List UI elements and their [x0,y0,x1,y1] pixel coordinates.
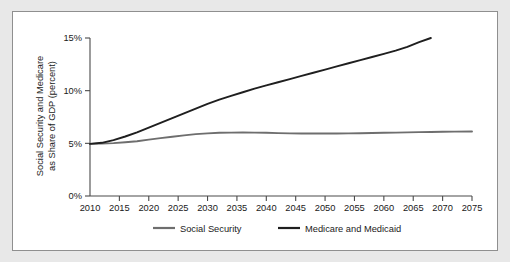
y-axis-title-line2: as Share of GDP (percent) [47,61,57,171]
legend-label: Social Security [180,224,242,234]
y-tick-label: 15% [63,33,82,43]
y-axis-title: Social Security and Medicare as Share of… [35,56,57,176]
x-tick-label: 2035 [227,203,248,213]
line-chart: Social Security and Medicare as Share of… [13,12,497,250]
x-tick-label: 2030 [197,203,218,213]
chart-panel: Social Security and Medicare as Share of… [12,11,498,251]
x-tick-label: 2070 [432,203,453,213]
x-tick-label: 2045 [285,203,306,213]
y-tick-label: 5% [69,139,82,149]
x-tick-label: 2050 [315,203,336,213]
legend-label: Medicare and Medicaid [305,224,401,234]
series-group [90,38,472,144]
x-tick-label: 2065 [403,203,424,213]
x-tick-label: 2010 [80,203,101,213]
x-tick-label: 2055 [344,203,365,213]
x-tick-label: 2015 [109,203,130,213]
chart-svg: Social Security and Medicare as Share of… [13,12,497,250]
series-line-social-security [90,132,472,144]
y-axis-ticks: 0%5%10%15% [63,33,90,201]
chart-legend: Social SecurityMedicare and Medicaid [153,224,401,234]
x-tick-label: 2060 [374,203,395,213]
x-axis-ticks: 2010201520202025203020352040204520502055… [80,196,483,213]
x-tick-label: 2020 [138,203,159,213]
series-line-medicare-and-medicaid [90,38,431,144]
x-tick-label: 2040 [256,203,277,213]
y-tick-label: 10% [63,86,82,96]
x-tick-label: 2075 [462,203,483,213]
x-tick-label: 2025 [168,203,189,213]
y-axis-title-line1: Social Security and Medicare [35,56,45,176]
y-tick-label: 0% [69,191,82,201]
